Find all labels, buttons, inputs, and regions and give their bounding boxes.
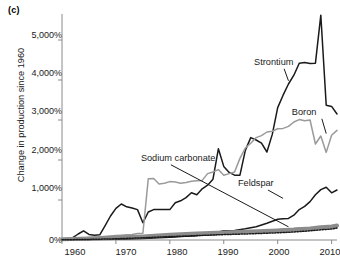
annotation-strontium: Strontium <box>254 57 293 67</box>
annotation-leader-line <box>322 119 326 134</box>
annotation-leader-line <box>284 69 288 81</box>
annotation-leader-line <box>268 190 283 198</box>
series-line-strontium <box>62 15 337 240</box>
annotation-boron: Boron <box>292 107 317 117</box>
annotation-sodium-carbonate: Sodium carbonate <box>141 153 216 163</box>
annotation-feldspar: Feldspar <box>238 178 274 188</box>
